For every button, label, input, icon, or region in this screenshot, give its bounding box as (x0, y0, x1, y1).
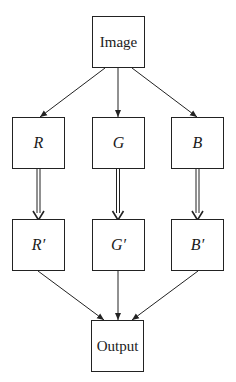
node-b: B (171, 117, 224, 169)
node-image-label: Image (100, 34, 137, 51)
edge-b-bprime (192, 169, 203, 220)
node-g-label: G (113, 134, 125, 152)
node-r-prime-label: R′ (32, 236, 45, 254)
node-r-label: R (34, 134, 44, 152)
node-g-prime: G′ (92, 219, 145, 271)
edge-image-r (40, 68, 105, 117)
node-r-prime: R′ (12, 219, 65, 271)
node-b-prime: B′ (171, 219, 224, 271)
node-image: Image (92, 16, 145, 68)
node-b-label: B (193, 134, 203, 152)
node-output: Output (91, 320, 144, 372)
node-g: G (92, 117, 145, 169)
edge-rprime-output (38, 271, 104, 320)
edge-g-gprime (113, 169, 124, 220)
node-g-prime-label: G′ (111, 236, 126, 254)
node-b-prime-label: B′ (191, 236, 204, 254)
edge-bprime-output (132, 271, 198, 320)
node-r: R (12, 117, 65, 169)
edge-image-b (132, 68, 197, 117)
edge-r-rprime (33, 169, 44, 220)
node-output-label: Output (97, 338, 139, 355)
